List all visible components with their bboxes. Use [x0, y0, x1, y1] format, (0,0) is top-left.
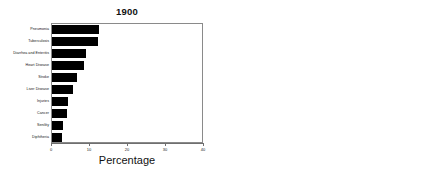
bar-category-label: Heart Disease	[26, 60, 49, 70]
bar	[52, 49, 86, 58]
bar-row: Tuberculosis	[52, 36, 202, 48]
bar-row: Diarrhea and Enteritis	[52, 48, 202, 60]
x-axis-tick	[165, 143, 166, 146]
bar	[52, 85, 73, 94]
bar-row: Liver Disease	[52, 84, 202, 96]
x-axis-tick-label: 30	[163, 147, 167, 152]
bar-row: Heart Disease	[52, 60, 202, 72]
x-axis-tick	[127, 143, 128, 146]
x-axis-tick-label: 40	[201, 147, 205, 152]
x-axis-tick-label: 0	[50, 147, 52, 152]
x-axis-tick	[203, 143, 204, 146]
bar-category-label: Injuries	[37, 96, 49, 106]
x-axis-tick-label: 10	[87, 147, 91, 152]
panel-title-1900: 1900	[51, 6, 203, 17]
bar-category-label: Liver Disease	[27, 84, 49, 94]
bar-rows-1900: PneumoniaTuberculosisDiarrhea and Enteri…	[52, 24, 202, 142]
bar-category-label: Diarrhea and Enteritis	[13, 48, 49, 58]
bar-category-label: Diphtheria	[32, 132, 49, 142]
bar	[52, 61, 84, 70]
bar-row: Senility	[52, 120, 202, 132]
bar-category-label: Pneumonia	[30, 24, 49, 34]
bar	[52, 73, 77, 82]
x-axis-tick	[89, 143, 90, 146]
bar	[52, 121, 63, 130]
plot-area-1900: PneumoniaTuberculosisDiarrhea and Enteri…	[51, 23, 203, 143]
bar-category-label: Stroke	[38, 72, 49, 82]
figure-two-panel-bar-charts: 1900 PneumoniaTuberculosisDiarrhea and E…	[0, 0, 447, 176]
bar-category-label: Cancer	[37, 108, 49, 118]
bar-row: Injuries	[52, 96, 202, 108]
bar	[52, 133, 62, 142]
bar	[52, 25, 99, 34]
bar	[52, 37, 98, 46]
bar	[52, 97, 68, 106]
panel-1900: 1900 PneumoniaTuberculosisDiarrhea and E…	[0, 0, 224, 176]
x-axis-label-1900: Percentage	[51, 154, 203, 166]
x-axis-1900: 010203040	[51, 143, 203, 144]
x-axis-tick	[51, 143, 52, 146]
x-axis-tick-label: 20	[125, 147, 129, 152]
panel-1997: 1997 Heart DiseaseCancerStrokeChronic Lu…	[224, 0, 447, 176]
bar-row: Pneumonia	[52, 24, 202, 36]
bar-row: Stroke	[52, 72, 202, 84]
bar-category-label: Tuberculosis	[28, 36, 49, 46]
bar	[52, 109, 67, 118]
bar-category-label: Senility	[37, 120, 49, 130]
bar-row: Cancer	[52, 108, 202, 120]
